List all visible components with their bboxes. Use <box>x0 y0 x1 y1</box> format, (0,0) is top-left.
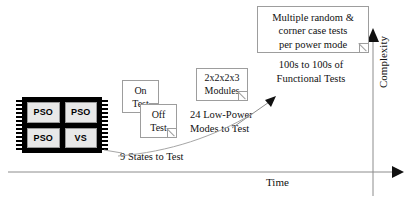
page-fold-icon <box>359 43 368 52</box>
chip-diagram: PSO PSO PSO VS <box>16 97 108 153</box>
chip-domain-cell: PSO <box>27 102 60 123</box>
note-random-line2: corner case tests <box>258 24 368 37</box>
caption-functional-line1: 100s to 100s of <box>262 58 360 72</box>
page-fold-icon <box>238 91 247 100</box>
arrowhead-modes-to-functional <box>265 96 276 107</box>
chip-domain-cell: VS <box>65 128 98 149</box>
caption-functional-line2: Functional Tests <box>262 72 360 86</box>
note-random-line1: Multiple random & <box>258 11 368 24</box>
chip-domain-cell: PSO <box>65 102 98 123</box>
note-off-test: Off Test <box>140 104 177 138</box>
y-axis-label: Complexity <box>377 36 389 88</box>
caption-24-low-power-modes: 24 Low-Power Modes to Test <box>190 108 253 135</box>
x-axis-arrowhead <box>392 166 404 178</box>
caption-modes-line2: Modes to Test <box>190 122 253 136</box>
caption-functional-tests: 100s to 100s of Functional Tests <box>262 58 360 85</box>
note-on-test-line1: On <box>123 85 158 98</box>
x-axis-label: Time <box>266 176 289 188</box>
caption-9-states-to-test: 9 States to Test <box>120 150 184 164</box>
chip-pins-right-icon <box>101 100 108 150</box>
note-modules-line1: 2x2x2x3 <box>197 72 247 85</box>
chip-domain-grid: PSO PSO PSO VS <box>22 97 102 153</box>
note-modules: 2x2x2x3 Modules <box>196 68 248 101</box>
note-off-test-line1: Off <box>141 109 176 122</box>
diagram-canvas: PSO PSO PSO VS On Test Off Test 2x2x2x3 … <box>0 0 416 205</box>
note-random-line3: per power mode <box>258 38 368 51</box>
chip-domain-cell: PSO <box>27 128 60 149</box>
caption-modes-line1: 24 Low-Power <box>190 108 253 122</box>
page-fold-icon <box>167 128 176 137</box>
note-random-corner-case: Multiple random & corner case tests per … <box>257 6 369 53</box>
